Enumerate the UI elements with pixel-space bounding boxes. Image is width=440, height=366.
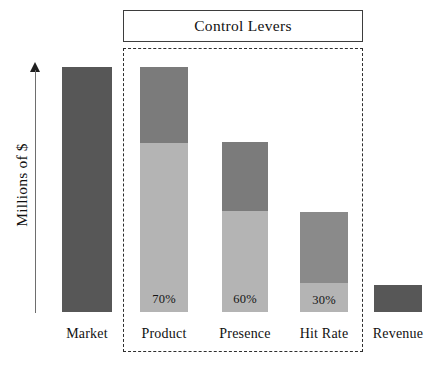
bar-market [62, 67, 112, 312]
bar-product-segment-top [140, 67, 188, 143]
category-label-hit-rate: Hit Rate [284, 326, 364, 342]
bar-revenue-segment [374, 285, 422, 312]
category-label-presence: Presence [205, 326, 285, 342]
y-axis-line [35, 70, 36, 313]
y-axis-title: Millions of $ [13, 100, 31, 270]
bar-presence-segment-top [222, 142, 268, 211]
bar-hit-rate-segment-bottom: 30% [300, 283, 348, 312]
bar-chart: Millions of $ Control Levers 70% 60% 30%… [0, 0, 440, 366]
bar-product-data-label: 70% [140, 292, 188, 307]
bar-hit-rate: 30% [300, 212, 348, 312]
bar-hit-rate-segment-top [300, 212, 348, 283]
control-levers-label: Control Levers [194, 17, 292, 35]
bar-presence-segment-bottom: 60% [222, 211, 268, 312]
category-label-market: Market [47, 326, 127, 342]
bar-hit-rate-data-label: 30% [300, 293, 348, 308]
bar-presence: 60% [222, 142, 268, 312]
bar-market-segment [62, 67, 112, 312]
category-label-revenue: Revenue [358, 326, 438, 342]
control-levers-header-box: Control Levers [123, 10, 363, 42]
bar-product-segment-bottom: 70% [140, 143, 188, 312]
category-label-product: Product [124, 326, 204, 342]
bar-product: 70% [140, 67, 188, 312]
bar-presence-data-label: 60% [222, 292, 268, 307]
bar-revenue [374, 285, 422, 312]
